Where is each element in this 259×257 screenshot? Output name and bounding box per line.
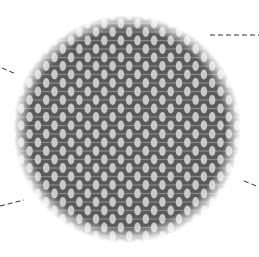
mesh-cell bbox=[84, 121, 91, 131]
mesh-cell bbox=[217, 19, 224, 29]
mesh-cell bbox=[159, 95, 166, 105]
mesh-cell bbox=[126, 231, 133, 241]
mesh-cell bbox=[126, 27, 133, 37]
mesh-cell bbox=[151, 19, 158, 29]
mesh-cell bbox=[43, 78, 50, 88]
mesh-cell bbox=[26, 197, 32, 207]
mesh-cell bbox=[51, 172, 58, 182]
mesh-cell bbox=[76, 44, 83, 54]
mesh-cell bbox=[192, 129, 199, 139]
mesh-cell bbox=[209, 163, 216, 173]
mesh-cell bbox=[1, 138, 8, 148]
mesh-diagram bbox=[0, 0, 259, 257]
mesh-cell bbox=[167, 121, 174, 131]
mesh-cell bbox=[51, 19, 58, 29]
mesh-cell bbox=[192, 61, 199, 71]
mesh-cell bbox=[143, 112, 150, 122]
mesh-cell bbox=[167, 189, 174, 199]
mesh-cell bbox=[93, 61, 100, 71]
mesh-cell bbox=[134, 172, 141, 182]
mesh-cell bbox=[209, 197, 216, 207]
mesh-cell bbox=[35, 53, 42, 63]
mesh-cell bbox=[151, 53, 158, 63]
mesh-cell bbox=[18, 206, 25, 216]
mesh-cell bbox=[93, 44, 100, 54]
mesh-cell bbox=[10, 0, 17, 3]
mesh-cell bbox=[192, 146, 199, 156]
mesh-cell bbox=[51, 121, 58, 131]
mesh-cell bbox=[109, 231, 116, 241]
mesh-cell bbox=[201, 19, 208, 29]
mesh-cell bbox=[134, 53, 141, 63]
mesh-cell bbox=[84, 138, 91, 148]
mesh-cell bbox=[184, 53, 191, 63]
mesh-cell bbox=[159, 146, 166, 156]
mesh-cell bbox=[151, 155, 158, 165]
mesh-cell bbox=[151, 240, 158, 250]
mesh-cell bbox=[76, 146, 83, 156]
mesh-cell bbox=[10, 95, 17, 105]
mesh-cell bbox=[151, 2, 158, 12]
mesh-cell bbox=[151, 223, 158, 233]
mesh-cell bbox=[134, 70, 141, 80]
mesh-cell bbox=[242, 95, 249, 105]
mesh-cell bbox=[217, 155, 224, 165]
mesh-cell bbox=[10, 214, 17, 224]
mesh-cell bbox=[76, 0, 83, 3]
mesh-cell bbox=[242, 10, 249, 20]
mesh-cell bbox=[126, 180, 133, 190]
mesh-cell bbox=[68, 155, 75, 165]
mesh-cell bbox=[167, 104, 174, 114]
mesh-cell bbox=[26, 214, 32, 224]
mesh-cell bbox=[35, 104, 42, 114]
mesh-cell bbox=[134, 121, 141, 131]
mesh-cell bbox=[84, 2, 91, 12]
mesh-cell bbox=[118, 70, 125, 80]
mesh-cell bbox=[60, 61, 67, 71]
mesh-cell bbox=[26, 112, 32, 122]
mesh-cell bbox=[217, 172, 224, 182]
mesh-cell bbox=[18, 2, 25, 12]
mesh-cell bbox=[126, 44, 133, 54]
mesh-cell bbox=[101, 138, 108, 148]
mesh-cell bbox=[250, 155, 257, 165]
mesh-cell bbox=[209, 214, 216, 224]
mesh-cell bbox=[51, 2, 58, 12]
mesh-cell bbox=[1, 206, 8, 216]
mesh-cell bbox=[68, 104, 75, 114]
mesh-cell bbox=[35, 240, 42, 250]
mesh-cell bbox=[35, 2, 42, 12]
mesh-cell bbox=[167, 19, 174, 29]
mesh-cell bbox=[68, 36, 75, 46]
mesh-cell bbox=[234, 2, 241, 12]
mesh-cell bbox=[60, 231, 67, 241]
mesh-cell bbox=[226, 146, 233, 156]
mesh-cell bbox=[43, 214, 50, 224]
mesh-cell bbox=[26, 27, 32, 37]
mesh-cell bbox=[242, 0, 249, 3]
mesh-cell bbox=[76, 78, 83, 88]
mesh-cell bbox=[51, 36, 58, 46]
mesh-cell bbox=[159, 44, 166, 54]
mesh-cell bbox=[192, 231, 199, 241]
mesh-cell bbox=[250, 240, 257, 250]
mesh-cell bbox=[126, 78, 133, 88]
mesh-cell bbox=[143, 10, 150, 20]
mesh-cell bbox=[176, 163, 183, 173]
mesh-cell bbox=[43, 95, 50, 105]
mesh-cell bbox=[126, 95, 133, 105]
mesh-cell bbox=[217, 189, 224, 199]
mesh-cell bbox=[43, 146, 50, 156]
mesh-cell bbox=[10, 248, 17, 257]
mesh-cell bbox=[159, 129, 166, 139]
mesh-cell bbox=[176, 0, 183, 3]
mesh-cell bbox=[234, 189, 241, 199]
mesh-cell bbox=[84, 70, 91, 80]
mesh-cell bbox=[43, 231, 50, 241]
mesh-circle bbox=[0, 0, 257, 257]
mesh-cell bbox=[184, 155, 191, 165]
mesh-cell bbox=[101, 172, 108, 182]
mesh-cell bbox=[151, 87, 158, 97]
mesh-cell bbox=[226, 197, 233, 207]
mesh-cell bbox=[68, 172, 75, 182]
